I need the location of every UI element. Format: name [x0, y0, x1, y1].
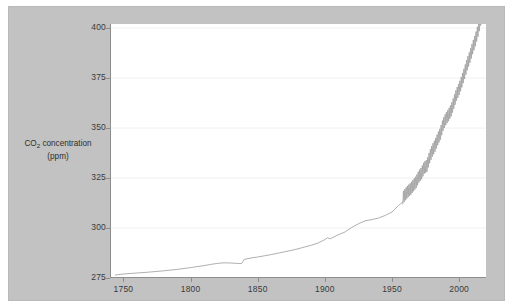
y-axis-title-line2: (ppm) — [10, 151, 106, 162]
x-tick-label: 1950 — [372, 284, 412, 294]
y-axis-title-line1: CO2 concentration — [10, 138, 106, 151]
x-tick-label: 2000 — [439, 284, 479, 294]
x-tick-label: 1900 — [305, 284, 345, 294]
y-axis-title-word: concentration — [40, 139, 91, 148]
x-tick-mark — [191, 278, 192, 282]
x-tick-mark — [258, 278, 259, 282]
co2-concentration-figure: 275300325350375400 175018001850190019502… — [0, 0, 513, 307]
y-axis-title: CO2 concentration (ppm) — [10, 138, 106, 162]
y-axis-title-species: CO — [24, 139, 36, 148]
x-tick-mark — [123, 278, 124, 282]
x-tick-label: 1750 — [103, 284, 143, 294]
x-tick-label: 1800 — [171, 284, 211, 294]
x-tick-mark — [325, 278, 326, 282]
x-tick-mark — [459, 278, 460, 282]
x-tick-mark — [392, 278, 393, 282]
x-tick-label: 1850 — [238, 284, 278, 294]
